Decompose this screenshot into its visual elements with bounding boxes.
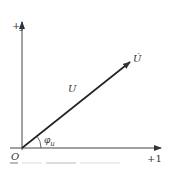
angle-arc	[37, 136, 41, 148]
imaginary-axis-label: +j	[12, 21, 23, 31]
phasor-vector	[22, 62, 130, 148]
phase-angle-label: φu	[44, 136, 55, 148]
phase-angle-subscript: u	[50, 140, 55, 148]
figure-caption-cutoff	[10, 162, 160, 166]
phasor-diagram-canvas	[0, 0, 169, 174]
phasor-symbol-label: U̇	[133, 54, 141, 64]
phasor-magnitude-label: U	[68, 84, 76, 94]
origin-label: O	[11, 152, 19, 162]
